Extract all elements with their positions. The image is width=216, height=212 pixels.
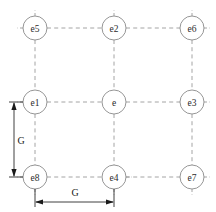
grid-diagram-canvas: e5 e2 e6 e1 e e3 <box>0 0 216 212</box>
horizontal-dimension-arrow-right <box>106 199 114 204</box>
node-e2-label: e2 <box>110 24 119 34</box>
node-e3[interactable]: e3 <box>180 90 204 114</box>
node-e7-label: e7 <box>188 173 197 183</box>
node-e4[interactable]: e4 <box>102 165 126 189</box>
grid-diagram: e5 e2 e6 e1 e e3 <box>0 0 216 212</box>
node-e5-label: e5 <box>31 24 40 34</box>
node-e1[interactable]: e1 <box>23 90 47 114</box>
node-layer: e5 e2 e6 e1 e e3 <box>23 16 204 189</box>
node-e4-label: e4 <box>110 173 119 183</box>
node-e8[interactable]: e8 <box>23 165 47 189</box>
node-e-label: e <box>112 98 116 108</box>
node-e6-label: e6 <box>188 24 197 34</box>
node-e6[interactable]: e6 <box>180 16 204 40</box>
node-e1-label: e1 <box>31 98 40 108</box>
vertical-dimension-arrow-top <box>11 102 16 110</box>
vertical-dimension-label: G <box>17 135 24 146</box>
horizontal-dimension: G <box>35 187 114 208</box>
horizontal-dimension-arrow-left <box>35 199 43 204</box>
node-e3-label: e3 <box>188 98 197 108</box>
horizontal-dimension-label: G <box>71 187 78 198</box>
vertical-dimension-arrow-bottom <box>11 169 16 177</box>
node-e2[interactable]: e2 <box>102 16 126 40</box>
node-e[interactable]: e <box>102 90 126 114</box>
node-e8-label: e8 <box>31 173 40 183</box>
node-e7[interactable]: e7 <box>180 165 204 189</box>
node-e5[interactable]: e5 <box>23 16 47 40</box>
vertical-dimension: G <box>9 102 25 177</box>
